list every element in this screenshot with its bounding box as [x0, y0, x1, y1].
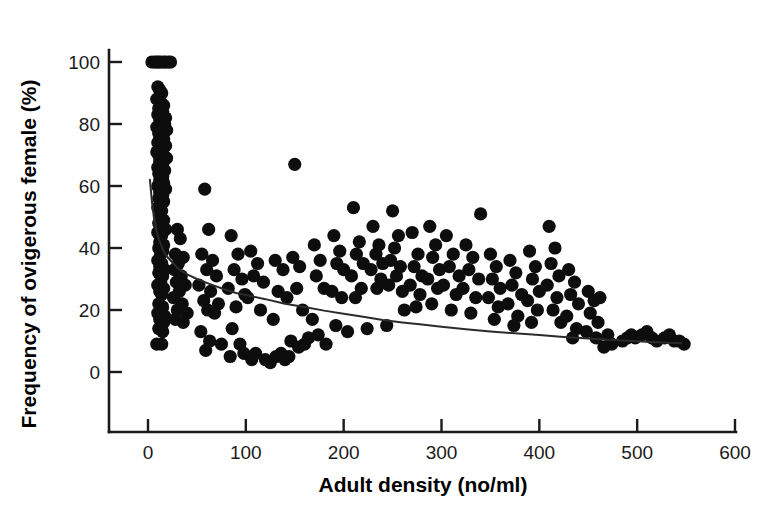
- scatter-point: [254, 303, 267, 316]
- scatter-point: [199, 344, 212, 357]
- scatter-point: [370, 282, 383, 295]
- scatter-point: [208, 307, 221, 320]
- scatter-point: [443, 260, 456, 273]
- scatter-point: [421, 272, 434, 285]
- scatter-point: [308, 238, 321, 251]
- scatter-point: [409, 300, 422, 313]
- scatter-point: [488, 313, 501, 326]
- scatter-point: [226, 322, 239, 335]
- scatter-point: [349, 291, 362, 304]
- scatter-point: [382, 279, 395, 292]
- scatter-point: [568, 276, 581, 289]
- x-tick-label: 600: [719, 442, 751, 463]
- scatter-point: [198, 183, 211, 196]
- scatter-point: [241, 291, 254, 304]
- scatter-point: [466, 251, 479, 264]
- scatter-point: [353, 235, 366, 248]
- scatter-point: [245, 353, 258, 366]
- scatter-point: [215, 338, 228, 351]
- scatter-point: [310, 269, 323, 282]
- scatter-point: [423, 220, 436, 233]
- y-tick-label: 0: [89, 362, 100, 383]
- scatter-point: [494, 282, 507, 295]
- scatter-point: [548, 241, 561, 254]
- scatter-point: [447, 248, 460, 261]
- scatter-point: [174, 232, 187, 245]
- scatter-point: [288, 158, 301, 171]
- scatter-point: [164, 55, 177, 68]
- scatter-point: [472, 272, 485, 285]
- scatter-point: [541, 279, 554, 292]
- x-tick-label: 0: [143, 442, 154, 463]
- scatter-point: [225, 229, 238, 242]
- scatter-point: [462, 263, 475, 276]
- scatter-point: [507, 319, 520, 332]
- scatter-point: [267, 313, 280, 326]
- scatter-point: [341, 325, 354, 338]
- scatter-point: [244, 245, 257, 258]
- scatter-point: [251, 257, 264, 270]
- scatter-point: [429, 238, 442, 251]
- scatter-point: [482, 291, 495, 304]
- scatter-point: [501, 297, 514, 310]
- scatter-point: [345, 269, 358, 282]
- x-tick-label: 300: [426, 442, 458, 463]
- scatter-point: [398, 303, 411, 316]
- scatter-point: [543, 220, 556, 233]
- scatter-point: [544, 257, 557, 270]
- scatter-point: [235, 272, 248, 285]
- scatter-point: [593, 291, 606, 304]
- scatter-point: [529, 260, 542, 273]
- y-tick-label: 100: [68, 52, 100, 73]
- scatter-point: [347, 201, 360, 214]
- x-tick-label: 400: [523, 442, 555, 463]
- y-tick-label: 60: [79, 176, 100, 197]
- scatter-point: [591, 316, 604, 329]
- scatter-point: [329, 319, 342, 332]
- x-axis-title: Adult density (no/ml): [319, 473, 528, 496]
- scatter-point: [327, 229, 340, 242]
- scatter-point: [469, 291, 482, 304]
- scatter-point: [546, 303, 559, 316]
- scatter-point: [484, 248, 497, 261]
- scatter-point: [335, 291, 348, 304]
- scatter-point: [155, 338, 168, 351]
- scatter-point: [445, 303, 458, 316]
- x-tick-label: 500: [621, 442, 653, 463]
- scatter-point: [526, 272, 539, 285]
- scatter-point: [231, 248, 244, 261]
- scatter-point: [437, 279, 450, 292]
- scatter-point: [459, 238, 472, 251]
- scatter-point: [361, 322, 374, 335]
- scatter-point: [550, 291, 563, 304]
- scatter-point: [364, 263, 377, 276]
- y-axis-title: Frequency of ovigerous female (%): [17, 80, 40, 429]
- scatter-point: [386, 204, 399, 217]
- scatter-point: [406, 226, 419, 239]
- scatter-point: [290, 282, 303, 295]
- scatter-point: [464, 307, 477, 320]
- scatter-point: [456, 282, 469, 295]
- scatter-point: [229, 300, 242, 313]
- scatter-point: [333, 245, 346, 258]
- figure-container: 020406080100 0100200300400500600 Adult d…: [0, 0, 778, 508]
- scatter-point: [292, 341, 305, 354]
- scatter-point: [392, 229, 405, 242]
- y-tick-label: 20: [79, 300, 100, 321]
- scatter-point: [411, 248, 424, 261]
- scatter-point: [278, 353, 291, 366]
- scatter-point: [319, 338, 332, 351]
- scatter-point: [293, 260, 306, 273]
- scatter-point: [509, 266, 522, 279]
- scatter-point: [366, 220, 379, 233]
- scatter-point: [224, 350, 237, 363]
- scatter-point: [503, 254, 516, 267]
- scatter-point: [276, 263, 289, 276]
- scatter-point: [388, 241, 401, 254]
- scatter-point: [572, 297, 585, 310]
- scatter-point: [177, 316, 190, 329]
- scatter-point: [440, 229, 453, 242]
- scatter-plot: 020406080100 0100200300400500600 Adult d…: [0, 0, 778, 508]
- x-tick-label: 200: [328, 442, 360, 463]
- scatter-point: [210, 269, 223, 282]
